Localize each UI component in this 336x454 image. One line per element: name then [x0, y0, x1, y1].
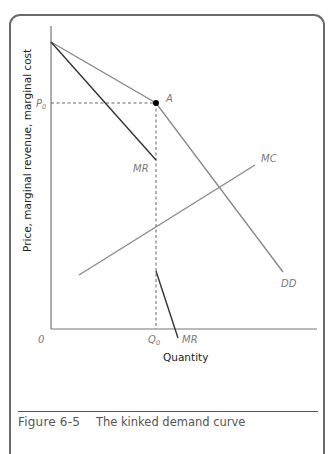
mc-curve: [79, 165, 255, 275]
mr-lower-label: MR: [182, 334, 198, 345]
origin-label: 0: [38, 334, 44, 345]
mr-upper-curve: [51, 42, 156, 160]
mr-upper-label: MR: [133, 163, 149, 174]
q0-label: Q0: [148, 334, 160, 347]
dd-demand-curve: [51, 42, 283, 272]
y-axis-title: Price, marginal revenue, marginal cost: [21, 49, 33, 252]
x-axis-title: Quantity: [163, 351, 208, 363]
p0-label: P0: [36, 98, 46, 111]
mr-lower-curve: [156, 271, 178, 338]
point-a-label: A: [165, 93, 173, 104]
figure-caption: Figure 6-5 The kinked demand curve: [18, 415, 245, 429]
caption-separator: [18, 411, 318, 412]
figure-title: The kinked demand curve: [96, 415, 246, 429]
figure-number: Figure 6-5: [18, 415, 80, 429]
dd-label: DD: [281, 278, 297, 289]
point-a-marker: [153, 100, 159, 106]
mc-label: MC: [261, 153, 277, 164]
